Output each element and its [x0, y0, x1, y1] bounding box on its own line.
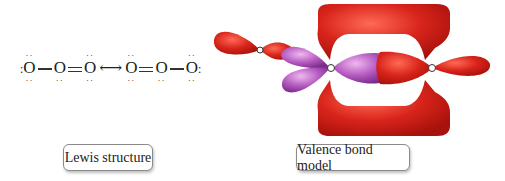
- left-terminal-lobe: [214, 32, 260, 55]
- single-bond: [38, 68, 52, 69]
- oxygen-atom: ··O··: [84, 58, 96, 78]
- pi-bond-bottom-lobe: [318, 80, 451, 136]
- oxygen-atom: ··O··: [23, 58, 35, 78]
- right-terminal-lobe: [432, 56, 490, 76]
- resonance-arrow-icon: ⟷: [99, 58, 122, 77]
- pi-bond-top-lobe: [318, 4, 451, 60]
- oxygen-nucleus: [429, 65, 436, 72]
- valence-bond-model-illustration: [200, 0, 505, 140]
- hybrid-lobe-upper: [281, 47, 330, 69]
- double-bond: [139, 67, 153, 72]
- oxygen-atom: ··O··: [186, 58, 198, 78]
- oxygen-atom: O··: [54, 58, 66, 78]
- valence-bond-model-label: Valence bond model: [296, 144, 410, 171]
- single-bond: [170, 68, 184, 69]
- hybrid-lobe-lower: [282, 68, 330, 93]
- double-bond: [68, 67, 82, 72]
- oxygen-atom: ··O··: [125, 58, 137, 78]
- oxygen-nucleus: [328, 65, 335, 72]
- lewis-structure-label: Lewis structure: [63, 144, 153, 171]
- lewis-structure: :··O··O····O··⟷··O··O····O··:: [20, 58, 201, 78]
- oxygen-atom: O··: [155, 58, 167, 78]
- oxygen-nucleus: [257, 47, 263, 53]
